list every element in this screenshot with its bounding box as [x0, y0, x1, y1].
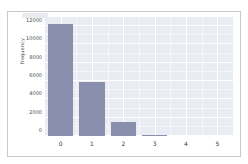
y-tick-label: 4000: [29, 90, 42, 96]
x-tick-label: 5: [215, 140, 219, 147]
histogram-chart: frequency 020004000600080001000012000012…: [8, 12, 240, 156]
figure-frame: frequency 020004000600080001000012000012…: [7, 11, 241, 157]
gridline-vertical: [217, 17, 218, 136]
gridline-vertical: [186, 17, 187, 136]
y-tick-label: 10000: [26, 35, 42, 41]
x-tick-label: 0: [59, 140, 63, 147]
gridline-vertical-minor: [170, 17, 171, 136]
gridline-vertical: [123, 17, 124, 136]
bar: [48, 24, 73, 136]
y-tick-label: 8000: [29, 54, 42, 60]
y-axis-label: frequency: [19, 21, 25, 81]
plot-area: 020004000600080001000012000012345: [45, 17, 233, 136]
x-tick-label: 3: [153, 140, 157, 147]
x-tick-label: 4: [184, 140, 188, 147]
gridline-vertical-minor: [139, 17, 140, 136]
y-tick-label: 2000: [29, 109, 42, 115]
y-tick-label: 6000: [29, 72, 42, 78]
y-tick-label: 0: [39, 127, 42, 133]
bar: [111, 122, 136, 136]
bar: [142, 135, 167, 136]
gridline-vertical: [155, 17, 156, 136]
x-tick-label: 2: [121, 140, 125, 147]
gridline-vertical-minor: [202, 17, 203, 136]
y-tick-label: 12000: [26, 17, 42, 23]
bar: [79, 82, 104, 136]
x-tick-label: 1: [90, 140, 94, 147]
gridline-vertical-minor: [76, 17, 77, 136]
gridline-vertical-minor: [108, 17, 109, 136]
